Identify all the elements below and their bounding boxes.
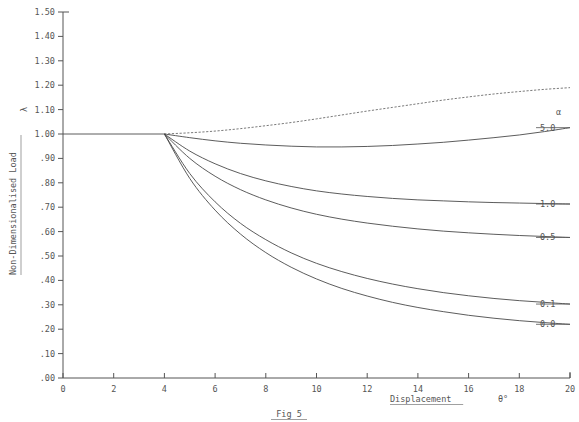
curve-alpha-1.0 [164, 134, 570, 204]
legend-label-0.1: 0.1 [540, 299, 555, 309]
y-tick-label: .70 [40, 202, 55, 212]
y-axis-title: Non-Dimensionalised Load [8, 152, 18, 275]
curve-alpha-0.0 [164, 134, 570, 324]
y-axis-symbol-lambda: λ [19, 107, 29, 112]
curve-alpha-0.5 [164, 134, 570, 237]
y-tick-label: 1.10 [35, 105, 55, 115]
y-tick-label: 1.30 [35, 56, 55, 66]
y-tick-label: .80 [40, 178, 55, 188]
chart-axes [63, 12, 570, 378]
legend-label-0.5: 0.5 [540, 232, 555, 242]
x-tick-label: 14 [413, 384, 423, 394]
legend-label-5.0: 5.0 [540, 123, 555, 133]
y-tick-label: .40 [40, 275, 55, 285]
x-tick-label: 2 [111, 384, 116, 394]
x-tick-label: 0 [60, 384, 65, 394]
x-axis-title: Displacement [390, 394, 451, 404]
y-tick-label: .00 [40, 373, 55, 383]
x-tick-label: 8 [263, 384, 268, 394]
y-tick-label: .10 [40, 349, 55, 359]
y-tick-label: .30 [40, 300, 55, 310]
y-tick-label: .60 [40, 227, 55, 237]
x-tick-label: 12 [362, 384, 372, 394]
y-tick-label: .20 [40, 324, 55, 334]
y-tick-label: 1.50 [35, 7, 55, 17]
y-tick-label: 1.20 [35, 80, 55, 90]
legend-header-alpha: α [556, 107, 561, 117]
legend-label-1.0: 1.0 [540, 199, 555, 209]
curve-alpha-0.1 [164, 134, 570, 304]
y-tick-label: 1.40 [35, 31, 55, 41]
x-axis-unit-theta: θ° [498, 394, 508, 404]
figure-caption: Fig 5 [276, 409, 302, 419]
y-tick-label: 1.00 [35, 129, 55, 139]
x-tick-label: 16 [463, 384, 473, 394]
x-tick-label: 4 [162, 384, 167, 394]
legend-label-0.0: 0.0 [540, 319, 555, 329]
x-tick-label: 18 [514, 384, 524, 394]
y-tick-label: .50 [40, 251, 55, 261]
chart-canvas: .00.10.20.30.40.50.60.70.80.901.001.101.… [0, 0, 579, 422]
curve-dotted-upper [164, 88, 570, 134]
figure-container: .00.10.20.30.40.50.60.70.80.901.001.101.… [0, 0, 579, 422]
x-tick-label: 6 [213, 384, 218, 394]
x-tick-label: 20 [565, 384, 575, 394]
y-tick-label: .90 [40, 153, 55, 163]
x-tick-label: 10 [311, 384, 321, 394]
